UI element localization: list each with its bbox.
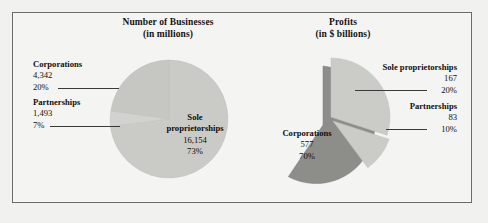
callout-label-name: Partnerships [350,101,457,112]
callout-label-value: 167 [330,73,457,84]
callout-profits-sole: Sole proprietorships 167 20% [330,62,457,96]
leader-line-profits-sole [355,90,427,91]
leader-line-businesses-partnerships [50,126,120,127]
callout-label-value: 83 [350,112,457,123]
panel-title-businesses: Number of Businesses (in millions) [110,17,226,40]
panel-title-profits: Profits (in $ billions) [288,17,398,40]
callout-label-name: Corporations [33,59,82,70]
panel-title-line2: (in millions) [110,29,226,41]
callout-label-value: 4,342 [33,70,82,81]
callout-label-name: Sole proprietorships [330,62,457,73]
callout-label-value: 1,493 [33,108,80,119]
slice-label-value: 16,154 [152,135,238,146]
panel-title-line1: Number of Businesses [122,17,213,27]
slice-label-value: 577 [268,139,346,150]
panel-title-line1: Profits [329,17,357,27]
callout-profits-partnerships: Partnerships 83 10% [350,101,457,135]
panel-title-line2: (in $ billions) [288,29,398,41]
slice-label-name: Corporations [268,128,346,139]
slice-label-percent: 73% [152,146,238,157]
slice-label-name-line1: Sole [152,112,238,123]
slice-label-name-line2: proprietorships [152,123,238,134]
chart-figure: Number of Businesses (in millions) Corpo… [0,0,488,223]
leader-line-businesses-corporations [58,88,119,89]
leader-line-profits-partnerships [386,129,427,130]
pie-slice-corporations [111,60,169,119]
slice-label-profits-corporations: Corporations 577 70% [268,128,346,162]
slice-label-percent: 70% [268,151,346,162]
callout-label-name: Partnerships [33,97,80,108]
slice-label-businesses-sole: Sole proprietorships 16,154 73% [152,112,238,158]
